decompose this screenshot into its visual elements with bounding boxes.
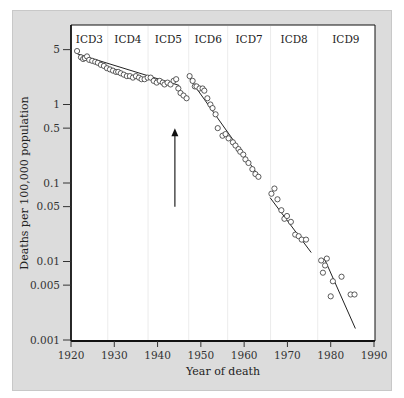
data-point — [272, 186, 277, 191]
data-point — [184, 96, 189, 101]
data-point — [269, 191, 274, 196]
icd-label: ICD6 — [195, 33, 223, 45]
icd-label: ICD7 — [235, 33, 262, 45]
icd-label: ICD4 — [114, 33, 142, 45]
x-tick-label: 1920 — [58, 349, 85, 361]
data-point — [328, 294, 333, 299]
y-axis-ticks: 510.50.10.050.010.0050.001 — [30, 43, 71, 345]
data-point — [210, 105, 215, 110]
data-point — [319, 258, 324, 263]
data-point — [202, 88, 207, 93]
x-tick-label: 1970 — [274, 349, 301, 361]
data-point — [190, 78, 195, 83]
y-axis-title: Deaths per 100,000 population — [18, 96, 31, 269]
data-point — [246, 160, 251, 165]
data-point — [339, 274, 344, 279]
y-tick-label: 0.5 — [43, 122, 60, 134]
data-point — [215, 126, 220, 131]
data-point — [324, 256, 329, 261]
data-point — [279, 208, 284, 213]
data-point — [250, 167, 255, 172]
data-point — [187, 74, 192, 79]
x-axis-title: Year of death — [185, 365, 260, 378]
data-point — [352, 292, 357, 297]
data-point — [275, 197, 280, 202]
x-tick-label: 1940 — [144, 349, 171, 361]
data-point — [330, 279, 335, 284]
scatter-chart: ICD3ICD4ICD5ICD6ICD7ICD8ICD9 510.50.10.0… — [0, 0, 404, 398]
data-point — [303, 237, 308, 242]
x-tick-label: 1980 — [317, 349, 344, 361]
icd-label: ICD9 — [332, 33, 359, 45]
data-point — [226, 136, 231, 141]
data-point — [213, 112, 218, 117]
x-tick-label: 1930 — [101, 349, 128, 361]
y-tick-label: 0.01 — [37, 255, 60, 267]
data-point — [288, 219, 293, 224]
y-tick-label: 5 — [53, 43, 60, 55]
icd-label: ICD3 — [76, 33, 103, 45]
y-tick-label: 0.005 — [30, 279, 60, 291]
y-tick-label: 0.1 — [43, 177, 60, 189]
y-tick-label: 0.001 — [30, 334, 60, 346]
data-point — [320, 270, 325, 275]
data-point — [74, 48, 79, 53]
data-point — [322, 263, 327, 268]
data-point — [174, 77, 179, 82]
data-point — [284, 213, 289, 218]
icd-label: ICD5 — [155, 33, 182, 45]
icd-label: ICD8 — [280, 33, 307, 45]
data-point — [256, 174, 261, 179]
x-tick-label: 1990 — [361, 349, 388, 361]
x-tick-label: 1960 — [231, 349, 258, 361]
y-tick-label: 1 — [53, 98, 60, 110]
y-tick-label: 0.05 — [37, 200, 60, 212]
data-point — [205, 96, 210, 101]
x-tick-label: 1950 — [187, 349, 214, 361]
x-axis-ticks: 19201930194019501960197019801990 — [58, 341, 388, 361]
